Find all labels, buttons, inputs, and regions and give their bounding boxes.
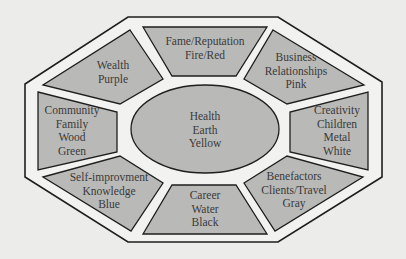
- community-line-1: Community: [45, 104, 100, 118]
- area-wealth-label: Wealth Purple: [97, 59, 129, 86]
- health-line-3: Yellow: [189, 137, 222, 151]
- creativity-line-2: Children: [314, 118, 360, 132]
- area-career-label: Career Water Black: [190, 189, 221, 230]
- area-health-label: Health Earth Yellow: [189, 110, 222, 151]
- career-line-3: Black: [190, 216, 221, 230]
- creativity-line-3: Metal: [314, 131, 360, 145]
- business-line-1: Business: [265, 51, 328, 65]
- self-improvement-line-1: Self-improvment: [70, 171, 149, 185]
- wealth-line-2: Purple: [97, 72, 129, 86]
- benefactors-line-1: Benefactors: [261, 170, 326, 184]
- business-line-3: Pink: [265, 78, 328, 92]
- area-creativity-label: Creativity Children Metal White: [314, 104, 360, 158]
- creativity-line-4: White: [314, 145, 360, 159]
- fame-line-1: Fame/Reputation: [165, 35, 244, 49]
- career-line-1: Career: [190, 189, 221, 203]
- business-line-2: Relationships: [265, 64, 328, 78]
- community-line-2: Family: [45, 118, 100, 132]
- fame-line-2: Fire/Red: [165, 48, 244, 62]
- self-improvement-line-3: Blue: [70, 198, 149, 212]
- area-self-improvement-label: Self-improvment Knowledge Blue: [70, 171, 149, 212]
- bagua-diagram: Fame/Reputation Fire/Red Business Relati…: [0, 0, 406, 259]
- community-line-3: Wood: [45, 131, 100, 145]
- area-fame-label: Fame/Reputation Fire/Red: [165, 35, 244, 62]
- health-line-2: Earth: [189, 123, 222, 137]
- area-community-label: Community Family Wood Green: [45, 104, 100, 158]
- career-line-2: Water: [190, 202, 221, 216]
- benefactors-line-3: Gray: [261, 197, 326, 211]
- wealth-line-1: Wealth: [97, 59, 129, 73]
- creativity-line-1: Creativity: [314, 104, 360, 118]
- health-line-1: Health: [189, 110, 222, 124]
- self-improvement-line-2: Knowledge: [70, 184, 149, 198]
- area-benefactors-label: Benefactors Clients/Travel Gray: [261, 170, 326, 211]
- community-line-4: Green: [45, 145, 100, 159]
- area-business-label: Business Relationships Pink: [265, 51, 328, 92]
- benefactors-line-2: Clients/Travel: [261, 183, 326, 197]
